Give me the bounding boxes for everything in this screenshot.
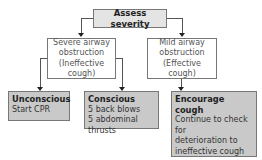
assess-severity-box: Assess severity [93, 9, 167, 28]
assess-severity-label: Assess severity [94, 8, 166, 29]
conscious-title: Conscious [88, 94, 155, 105]
conscious-box: Conscious 5 back blows 5 abdominal thrus… [84, 91, 159, 129]
connector-severe-unconscious-v [40, 58, 41, 87]
mild-line-2: obstruction [148, 48, 216, 59]
mild-line-3: (Effective cough) [148, 59, 216, 80]
conscious-line-1: 5 back blows [88, 105, 155, 116]
encourage-cough-title: Encourage cough [175, 94, 253, 115]
unconscious-box: Unconscious Start CPR [8, 91, 70, 121]
connector-root-severe-v [81, 18, 82, 34]
arrow-down-icon [179, 33, 185, 37]
severe-line-2: obstruction [48, 48, 115, 59]
connector-severe-conscious-v [122, 58, 123, 87]
severe-line-1: Severe airway [48, 38, 115, 49]
mild-obstruction-box: Mild airway obstruction (Effective cough… [147, 38, 217, 79]
connector-root-mild-v [182, 18, 183, 34]
encourage-line-3: ineffective cough or [175, 147, 253, 160]
encourage-cough-box: Encourage cough Continue to check for de… [171, 91, 257, 157]
unconscious-line-1: Start CPR [12, 105, 66, 116]
conscious-line-2: 5 abdominal thrusts [88, 115, 155, 136]
arrow-down-icon [78, 33, 84, 37]
severe-obstruction-box: Severe airway obstruction (Ineffective c… [47, 38, 116, 79]
connector-mild-encourage-v [181, 79, 182, 87]
encourage-line-2: deterioration to [175, 136, 253, 147]
unconscious-title: Unconscious [12, 94, 66, 105]
mild-line-1: Mild airway [148, 38, 216, 49]
connector-root-mild-h [167, 18, 182, 19]
encourage-line-1: Continue to check for [175, 115, 253, 136]
connector-severe-unconscious-h [40, 58, 47, 59]
connector-root-severe-h [81, 18, 93, 19]
severe-line-3: (Ineffective cough) [48, 59, 115, 80]
